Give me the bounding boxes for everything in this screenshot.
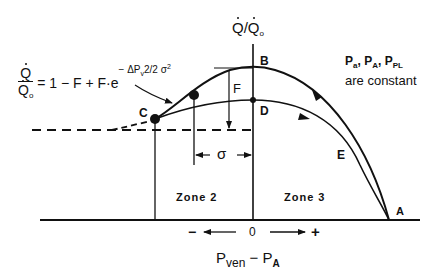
curve-extension-dashed [112,121,150,130]
formula-rhs: = 1 − F + F·e [37,75,118,91]
x-label-second: P [262,249,272,266]
zero-label: 0 [249,226,256,238]
sep-2: , [378,54,381,68]
y-label-den: Q [248,20,260,35]
const-pPL: P [385,54,393,68]
arrow-lower-curve [298,113,310,120]
label-A: A [396,206,404,217]
label-F: F [233,82,241,95]
constants-note: Pa, PA, PPL are constant [345,55,417,87]
point-C-marker [150,114,160,124]
formula-lhs-den-wrap: Qo [18,83,33,100]
x-label-minus: − [245,249,262,266]
formula-exponent-tail: 2/2 σ [144,64,167,75]
zone-3-label: Zone 3 [284,192,325,203]
formula-lhs-den-sub: o [29,91,33,100]
formula-lhs: Q Qo [18,66,33,101]
constants-line1: Pa, PA, PPL [345,55,417,70]
pos-sign: + [311,224,320,239]
point-sigma-marker [189,90,199,100]
label-C: C [139,107,148,119]
formula-lhs-num: Q [18,66,33,81]
formula: Q Qo = 1 − F + F·e− ΔPv2/2 σ2 [18,63,171,101]
label-B: B [260,55,269,67]
sep-1: , [357,54,360,68]
label-D: D [260,105,269,117]
formula-exponent-sq: 2 [167,63,171,70]
const-pPL-sub: PL [393,61,403,70]
const-pa: P [345,54,353,68]
point-D-marker [250,97,256,103]
zone-2-label: Zone 2 [176,192,217,203]
label-E: E [337,149,345,161]
formula-exponent: − ΔPv2/2 σ2 [119,64,171,75]
diagram-canvas [0,0,448,277]
formula-lhs-den: Q [18,83,29,98]
formula-exponent-main: − ΔP [119,64,141,75]
y-axis-label: Q/Qo [232,20,264,38]
y-label-den-sub: o [260,29,264,38]
const-pA: P [364,54,372,68]
x-label-main-sub: ven [226,256,245,270]
constants-line2: are constant [345,74,417,87]
y-label-num: Q [232,20,244,35]
x-label-main: P [216,249,226,266]
neg-sign: − [188,225,196,239]
x-axis-label: Pven − PA [216,250,280,269]
x-label-second-sub: A [273,258,280,269]
label-sigma: σ [217,146,226,161]
